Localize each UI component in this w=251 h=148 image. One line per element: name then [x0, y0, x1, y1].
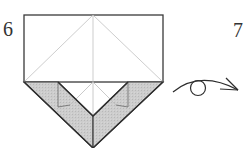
origami-diagram [0, 0, 251, 148]
model-step-6 [24, 15, 163, 148]
paper-rectangle [24, 15, 163, 82]
turn-over-circle-icon [191, 81, 206, 96]
turn-over-arrow-icon [173, 78, 238, 96]
